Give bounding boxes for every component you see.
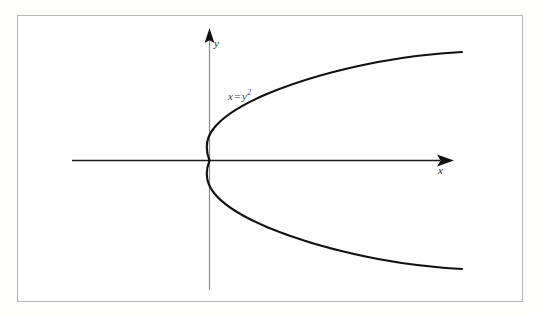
x-axis-label: x — [438, 165, 443, 176]
parabola-upper-branch — [207, 52, 462, 161]
y-axis-label: y — [214, 38, 219, 49]
parabola-plot — [0, 0, 538, 316]
equation-rhs-exponent: 2 — [247, 88, 251, 97]
figure-page: y x x=y2 — [0, 0, 538, 316]
parabola-lower-branch — [207, 161, 462, 270]
curve-equation-label: x=y2 — [228, 90, 251, 102]
equation-operator: = — [233, 90, 242, 102]
